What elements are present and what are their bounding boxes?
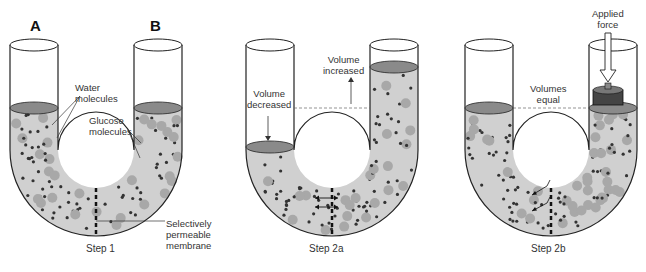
water-molecule bbox=[87, 197, 90, 200]
water-molecule bbox=[608, 147, 611, 150]
water-molecule bbox=[58, 205, 61, 208]
water-molecule bbox=[390, 117, 393, 120]
water-molecule bbox=[574, 220, 577, 223]
tube-label-a: A bbox=[30, 20, 41, 31]
water-molecule bbox=[263, 163, 266, 166]
tube-label-b: B bbox=[150, 20, 161, 31]
water-molecule bbox=[593, 123, 596, 126]
glucose-molecule bbox=[70, 209, 80, 219]
glucose-molecule bbox=[482, 134, 492, 144]
water-molecule bbox=[396, 193, 399, 196]
water-molecule bbox=[122, 194, 125, 197]
water-molecule bbox=[356, 219, 359, 222]
glucose-molecule bbox=[405, 125, 415, 135]
water-molecule bbox=[506, 140, 509, 143]
water-molecule bbox=[512, 202, 515, 205]
glucose-molecule bbox=[345, 200, 355, 210]
water-molecule bbox=[160, 177, 163, 180]
water-molecule bbox=[542, 226, 545, 229]
water-molecule bbox=[387, 181, 390, 184]
water-molecule bbox=[59, 185, 62, 188]
glucose-molecule bbox=[50, 170, 60, 180]
glucose-molecule bbox=[339, 222, 349, 232]
water-molecule bbox=[287, 199, 290, 202]
glucose-molecule bbox=[165, 171, 175, 181]
water-molecule bbox=[397, 120, 400, 123]
water-molecule bbox=[373, 190, 376, 193]
water-molecule bbox=[626, 134, 629, 137]
glucose-molecule bbox=[342, 211, 352, 221]
water-molecule bbox=[24, 143, 27, 146]
water-molecule bbox=[164, 137, 167, 140]
water-molecule bbox=[480, 131, 483, 134]
water-molecule bbox=[622, 153, 625, 156]
water-molecule bbox=[36, 130, 39, 133]
water-molecule bbox=[497, 174, 500, 177]
glucose-molecule bbox=[469, 124, 479, 134]
water-molecule bbox=[154, 129, 157, 132]
water-molecule bbox=[275, 197, 278, 200]
water-molecule bbox=[559, 219, 562, 222]
water-molecule bbox=[337, 192, 340, 195]
water-molecule bbox=[355, 223, 358, 226]
water-molecule bbox=[508, 134, 511, 137]
water-molecule bbox=[471, 157, 474, 160]
water-molecule bbox=[378, 123, 381, 126]
water-molecule bbox=[516, 186, 519, 189]
glucose-molecule bbox=[583, 185, 593, 195]
water-molecule bbox=[613, 151, 616, 154]
glucose-molecule bbox=[111, 220, 121, 230]
glucose-molecule bbox=[383, 161, 393, 171]
water-molecule bbox=[410, 168, 413, 171]
water-molecule bbox=[22, 137, 25, 140]
tube-opening bbox=[370, 39, 418, 51]
water-molecule bbox=[48, 180, 51, 183]
water-molecule bbox=[104, 203, 107, 206]
water-molecule bbox=[606, 172, 609, 175]
glucose-molecule bbox=[38, 113, 48, 123]
glucose-molecule bbox=[517, 209, 527, 219]
water-molecule bbox=[495, 150, 498, 153]
water-molecule bbox=[264, 190, 267, 193]
water-molecule bbox=[554, 212, 557, 215]
water-molecule bbox=[508, 218, 511, 221]
water-molecule bbox=[51, 216, 54, 219]
water-molecule bbox=[480, 183, 483, 186]
water-molecule bbox=[135, 186, 138, 189]
water-molecule bbox=[405, 144, 408, 147]
glucose-molecule bbox=[596, 148, 606, 158]
water-molecule bbox=[37, 170, 40, 173]
water-molecule bbox=[279, 169, 282, 172]
water-molecule bbox=[136, 117, 139, 120]
water-molecule bbox=[562, 202, 565, 205]
water-molecule bbox=[43, 195, 46, 198]
water-molecule bbox=[21, 152, 24, 155]
water-molecule bbox=[176, 124, 179, 127]
glucose-molecule bbox=[381, 81, 391, 91]
water-molecule bbox=[596, 196, 599, 199]
water-molecule bbox=[67, 201, 70, 204]
glucose-molecule bbox=[172, 115, 182, 125]
water-molecule bbox=[375, 141, 378, 144]
water-molecule bbox=[312, 212, 315, 215]
water-molecule bbox=[502, 197, 505, 200]
water-molecule bbox=[629, 123, 632, 126]
water-molecule bbox=[299, 186, 302, 189]
water-molecule bbox=[373, 138, 376, 141]
water-molecule bbox=[563, 215, 566, 218]
water-molecule bbox=[409, 87, 412, 90]
water-molecule bbox=[398, 102, 401, 105]
water-molecule bbox=[534, 201, 537, 204]
glucose-molecule bbox=[42, 138, 52, 148]
water-molecule bbox=[505, 151, 508, 154]
water-molecule bbox=[610, 127, 613, 130]
glucose-molecule bbox=[361, 212, 371, 222]
glucose-molecule bbox=[503, 167, 513, 177]
water-molecule bbox=[370, 164, 373, 167]
glucose-molecule bbox=[383, 185, 393, 195]
glucose-molecule bbox=[568, 201, 578, 211]
water-molecule bbox=[327, 206, 330, 209]
water-molecule bbox=[293, 195, 296, 198]
water-molecule bbox=[44, 159, 47, 162]
fluid-surface bbox=[134, 102, 182, 114]
